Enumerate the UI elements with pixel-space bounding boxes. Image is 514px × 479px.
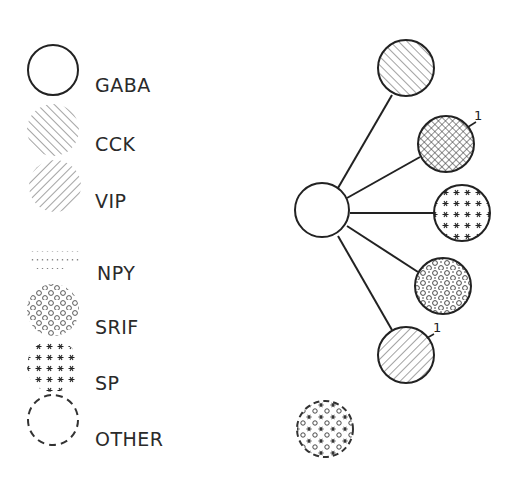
branch-node-vip <box>378 327 434 383</box>
legend-label-cck: CCK <box>95 133 136 155</box>
branch-node-srif-npy <box>415 258 471 314</box>
legend-label-gaba: GABA <box>95 74 151 96</box>
legend <box>27 45 81 445</box>
legend-srif-symbol <box>27 284 79 336</box>
legend-label-sp: SP <box>95 372 120 394</box>
legend-npy-symbol <box>31 241 79 270</box>
standalone-other-node <box>297 401 353 457</box>
diagram-canvas <box>0 0 514 479</box>
legend-vip-symbol <box>29 160 81 212</box>
legend-other-symbol <box>28 395 78 445</box>
legend-label-srif: SRIF <box>95 316 139 338</box>
annotation-vip: 1 <box>433 320 441 335</box>
annotation-cck-vip: 1 <box>474 108 482 123</box>
legend-cck-symbol <box>27 104 79 156</box>
legend-gaba-symbol <box>28 45 78 95</box>
branch-node-cck-vip <box>418 116 474 172</box>
branch-node-sp <box>434 185 490 241</box>
legend-sp-symbol <box>27 340 79 392</box>
legend-label-vip: VIP <box>95 190 127 212</box>
legend-label-npy: NPY <box>97 262 135 284</box>
center-gaba-node <box>295 183 349 237</box>
legend-label-other: OTHER <box>95 428 164 450</box>
branch-node-cck <box>378 40 434 96</box>
